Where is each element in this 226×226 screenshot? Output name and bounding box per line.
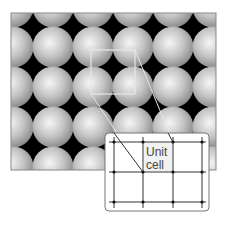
inset-label-unit: Unit	[146, 145, 168, 159]
unit-cell-inset: Unit cell	[105, 133, 209, 211]
inset-label-cell: cell	[146, 158, 164, 172]
lattice-diagram: Unit cell	[0, 0, 226, 226]
